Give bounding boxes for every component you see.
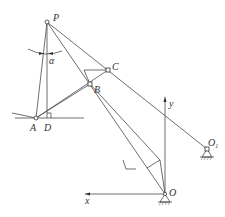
pivot-O1-hatch	[201, 157, 212, 160]
pivot-O-hatch	[159, 202, 170, 205]
joint-B	[88, 82, 92, 86]
label-B: B	[94, 84, 100, 95]
joint-C	[106, 68, 110, 72]
joint-A	[34, 116, 38, 120]
label-y: y	[168, 98, 174, 109]
label-O1: O1	[208, 137, 218, 149]
mechanism-diagram: P α C B A D y x O O1	[0, 0, 225, 217]
label-D: D	[43, 122, 52, 133]
diagram-svg: P α C B A D y x O O1	[0, 0, 225, 217]
label-O: O	[169, 187, 176, 198]
link-AB	[36, 84, 90, 118]
l-mark	[123, 160, 136, 169]
joint-P	[45, 20, 49, 24]
link-PA	[36, 22, 47, 118]
label-A: A	[29, 122, 37, 133]
link-PO1	[47, 22, 207, 149]
joint-O	[163, 192, 166, 195]
left-stub-line	[12, 113, 36, 118]
crossbar	[147, 160, 160, 168]
label-P: P	[52, 12, 59, 23]
y-axis-arrow-icon	[164, 96, 167, 102]
label-alpha: α	[49, 55, 55, 66]
right-angle-mark	[47, 113, 51, 118]
label-C: C	[112, 61, 119, 72]
label-x: x	[84, 195, 90, 206]
alpha-arc	[28, 49, 62, 54]
